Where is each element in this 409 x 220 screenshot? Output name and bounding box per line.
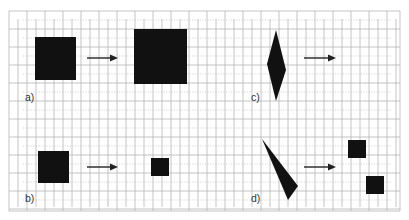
panel-a-label: a) (25, 91, 34, 103)
panel-d-image-square-top (348, 140, 366, 158)
panel-b: b) (25, 151, 169, 204)
panel-a-image-square (134, 29, 187, 84)
panel-a-original-square (35, 37, 76, 80)
panel-c-label: c) (251, 91, 260, 103)
panel-d-label: d) (251, 192, 260, 204)
panel-b-original-square (38, 151, 69, 183)
panel-d-image-square-bottom (366, 176, 384, 194)
panel-c-arrow (304, 55, 336, 62)
grid-diagram: a) c) b) d) (0, 0, 409, 220)
panel-a-arrow (87, 55, 118, 62)
panel-b-image-square (151, 158, 169, 176)
panel-b-label: b) (25, 192, 34, 204)
panel-b-arrow (87, 164, 118, 171)
panel-d-arrow (304, 164, 336, 171)
panel-d: d) (251, 139, 384, 204)
